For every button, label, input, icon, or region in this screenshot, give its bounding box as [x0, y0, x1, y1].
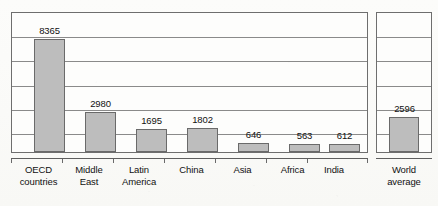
category-label-line2: America: [112, 176, 166, 188]
category-label-latin-america: Latin America: [112, 164, 166, 187]
axis-tick-5: [266, 159, 267, 163]
category-label-line1: Middle: [63, 164, 115, 176]
category-label-world-average: World average: [376, 164, 432, 187]
gridline-3: [12, 86, 367, 87]
category-label-line1: India: [308, 164, 360, 176]
category-label-oecd-countries: OECD countries: [11, 164, 66, 187]
main-axis-line: [11, 158, 368, 159]
axis-tick-2: [113, 159, 114, 163]
axis-tick-7: [367, 159, 368, 163]
gridline-4: [12, 110, 367, 111]
bar-china: [187, 128, 218, 152]
axis-tick-0: [11, 159, 12, 163]
gridline-2: [12, 61, 367, 62]
bar-oecd-countries: [34, 39, 65, 152]
world-average-panel: 2596: [376, 12, 432, 153]
category-label-india: India: [308, 164, 360, 176]
bar-value-india: 612: [321, 130, 368, 141]
bar-value-oecd-countries: 8365: [26, 25, 73, 36]
bar-middle-east: [85, 112, 116, 152]
gridline-1: [12, 37, 367, 38]
axis-tick-4: [215, 159, 216, 163]
axis-tick-6: [307, 159, 308, 163]
axis-tick-1: [62, 159, 63, 163]
bar-value-middle-east: 2980: [77, 98, 124, 109]
bar-asia: [238, 143, 269, 152]
bar-world-average: [389, 117, 419, 152]
world-average-axis-line: [376, 158, 432, 159]
gridline-3: [377, 86, 431, 87]
category-label-china: China: [165, 164, 218, 176]
category-label-line1: Latin: [112, 164, 166, 176]
category-label-asia: Asia: [216, 164, 269, 176]
category-label-line1: China: [165, 164, 218, 176]
category-label-line1: OECD: [11, 164, 66, 176]
main-panel: 8365 2980 1695 1802 646 563 612: [11, 12, 368, 153]
category-label-line1: Asia: [216, 164, 269, 176]
gridline-1: [377, 37, 431, 38]
axis-tick-3: [164, 159, 165, 163]
bar-value-latin-america: 1695: [128, 115, 175, 126]
bar-india: [329, 144, 360, 152]
bar-value-world-average: 2596: [381, 103, 428, 114]
gridline-2: [377, 61, 431, 62]
bar-value-asia: 646: [230, 129, 277, 140]
category-label-line2: countries: [11, 176, 66, 188]
bar-value-china: 1802: [179, 114, 226, 125]
category-label-middle-east: Middle East: [63, 164, 115, 187]
category-label-line2: East: [63, 176, 115, 188]
bar-chart: 8365 2980 1695 1802 646 563 612 OECD cou…: [0, 0, 438, 206]
bar-latin-america: [136, 129, 167, 152]
bar-africa: [289, 144, 320, 152]
category-label-line1: World: [376, 164, 432, 176]
category-label-line2: average: [376, 176, 432, 188]
